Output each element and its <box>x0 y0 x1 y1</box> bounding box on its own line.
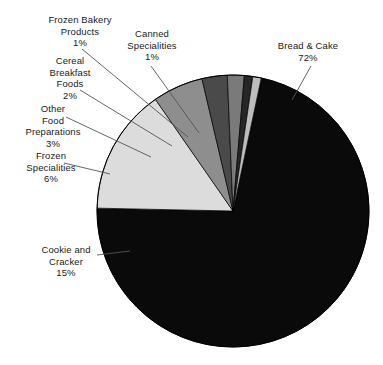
pie-label-cereal-breakfast-foods: Cereal Breakfast Foods 2% <box>34 55 106 101</box>
pie-label-cookie-and-cracker: Cookie and Cracker 15% <box>26 244 106 279</box>
pie-label-bread-and-cake: Bread & Cake 72% <box>258 40 358 63</box>
pie-label-canned-specialities: Canned Specialities 1% <box>113 28 191 63</box>
pie-chart: Bread & Cake 72% Cookie and Cracker 15% … <box>0 0 383 365</box>
pie-label-other-food-preparations: Other Food Preparations 3% <box>10 103 96 149</box>
pie-slice-group <box>97 75 369 347</box>
pie-label-frozen-specialities: Frozen Specialities 6% <box>10 150 92 185</box>
